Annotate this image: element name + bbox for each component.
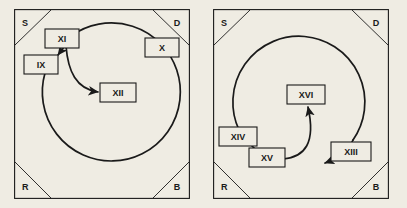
arrow-xi-to-xii xyxy=(66,46,98,92)
panel-right: S D R B XVI XIV XV xyxy=(213,9,389,199)
chamfer-bottom-right xyxy=(153,162,189,198)
chamfer-top-right xyxy=(352,10,388,45)
chamfer-bottom-left xyxy=(15,162,51,198)
arrow-xv-to-xvi xyxy=(283,107,311,159)
corner-label-bottom-right: B xyxy=(373,182,380,192)
node-ix-label: IX xyxy=(37,60,46,70)
corner-label-top-left: S xyxy=(22,18,28,28)
node-xi[interactable]: XI xyxy=(45,29,79,48)
node-xiv-label: XIV xyxy=(231,132,246,142)
chamfer-bottom-right xyxy=(352,162,388,198)
node-xiii[interactable]: XIII xyxy=(331,142,371,161)
figure-root: S D R B XI IX X xyxy=(0,0,407,208)
node-x[interactable]: X xyxy=(145,38,179,57)
chamfer-bottom-left xyxy=(214,162,250,198)
node-ix[interactable]: IX xyxy=(24,55,58,74)
node-xii[interactable]: XII xyxy=(100,83,136,102)
corner-label-bottom-left: R xyxy=(22,182,29,192)
panel-left: S D R B XI IX X xyxy=(14,9,190,199)
corner-label-top-left: S xyxy=(221,18,227,28)
corner-label-top-right: D xyxy=(373,18,380,28)
node-xv-label: XV xyxy=(261,153,273,163)
corner-label-bottom-right: B xyxy=(174,182,181,192)
node-xv[interactable]: XV xyxy=(249,148,285,167)
node-x-label: X xyxy=(159,43,165,53)
node-xvi-label: XVI xyxy=(299,90,314,100)
corner-label-bottom-left: R xyxy=(221,182,228,192)
node-xii-label: XII xyxy=(112,88,123,98)
node-xiv[interactable]: XIV xyxy=(219,127,257,146)
node-xi-label: XI xyxy=(58,34,67,44)
node-xvi[interactable]: XVI xyxy=(287,85,325,104)
node-xiii-label: XIII xyxy=(344,147,358,157)
corner-label-top-right: D xyxy=(174,18,181,28)
chamfer-top-left xyxy=(214,10,250,45)
